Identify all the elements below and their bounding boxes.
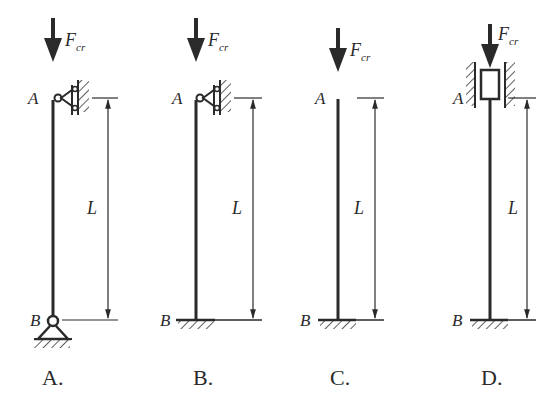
- top-roller-support-icon: [55, 80, 90, 115]
- top-point-label: A: [171, 89, 183, 108]
- bottom-point-label: B: [30, 311, 41, 330]
- panel-c: F cr A B L C.: [300, 28, 384, 390]
- fixed-support-icon: [318, 320, 384, 329]
- force-arrow-icon: [187, 18, 205, 62]
- panel-caption: C.: [330, 365, 350, 390]
- fixed-support-icon: [176, 320, 262, 329]
- panel-caption: A.: [42, 365, 63, 390]
- top-roller-support-icon: [197, 80, 232, 115]
- bottom-point-label: B: [160, 311, 171, 330]
- panel-b: F cr A B L B.: [160, 18, 262, 390]
- bottom-point-label: B: [452, 311, 463, 330]
- length-label: L: [86, 198, 97, 218]
- force-subscript: cr: [361, 51, 371, 63]
- panel-a: F cr A B L A.: [27, 18, 118, 390]
- force-subscript: cr: [509, 35, 519, 47]
- force-subscript: cr: [76, 41, 86, 53]
- panel-caption: D.: [481, 365, 502, 390]
- buckling-column-diagram: F cr A B L A.: [0, 0, 556, 403]
- top-point-label: A: [452, 89, 464, 108]
- force-arrow-icon: [44, 18, 62, 62]
- force-arrow-icon: [481, 24, 499, 68]
- panel-caption: B.: [193, 365, 213, 390]
- length-label: L: [507, 198, 518, 218]
- fixed-support-icon: [470, 320, 536, 329]
- force-arrow-icon: [329, 28, 347, 72]
- length-label: L: [231, 198, 242, 218]
- top-point-label: A: [27, 89, 39, 108]
- top-point-label: A: [314, 89, 326, 108]
- force-subscript: cr: [219, 41, 229, 53]
- length-label: L: [353, 198, 364, 218]
- bottom-point-label: B: [300, 311, 311, 330]
- panel-d: F cr A B L D.: [452, 24, 536, 390]
